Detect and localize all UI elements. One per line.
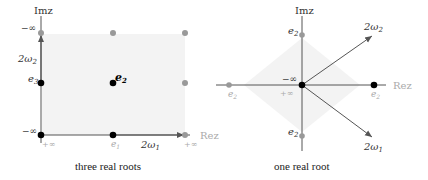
- e3-dot: [38, 80, 45, 87]
- re-axis-label: Rez: [200, 130, 219, 141]
- re-axis-label: Rez: [393, 80, 412, 91]
- right-caption: one real root: [274, 160, 330, 172]
- omega2-label: 2ω2: [17, 53, 38, 66]
- neg-inf-label: −∞: [22, 126, 37, 136]
- grey-dot: [182, 30, 188, 36]
- grey-dot: [110, 30, 116, 36]
- plus-inf-label: +∞: [42, 140, 55, 149]
- im-axis-label: Imz: [295, 5, 314, 16]
- grey-dot: [182, 132, 188, 138]
- e1-dot: [110, 132, 117, 139]
- grey-dot: [226, 82, 232, 88]
- omega1-label: 2ω1: [140, 139, 160, 152]
- e2-left-label: e2: [228, 89, 237, 100]
- omega2-label: 2ω2: [363, 21, 384, 34]
- neg-inf-label: −∞: [282, 74, 297, 84]
- diagram-canvas: Imz −∞ 2ω2 e3 e2 −∞ +∞ e1 2ω1 +∞ Rez Imz…: [0, 0, 428, 180]
- im-axis-label: Imz: [34, 5, 53, 16]
- e2-real-dot: [371, 82, 378, 89]
- left-panel: [38, 16, 190, 143]
- plus-inf-label: +∞: [280, 89, 293, 98]
- e2-right-label: e2: [371, 89, 380, 100]
- origin-dot: [299, 82, 306, 89]
- left-caption: three real roots: [75, 160, 141, 172]
- e2-top-label: e2: [288, 25, 299, 38]
- grey-dot: [299, 32, 305, 38]
- grey-dot: [299, 133, 305, 139]
- e1-label: e1: [111, 139, 120, 150]
- neg-inf-label: −∞: [21, 23, 36, 33]
- e3-label: e3: [28, 73, 39, 86]
- grey-dot: [38, 30, 44, 36]
- omega1-label: 2ω1: [363, 141, 383, 154]
- figure: Imz −∞ 2ω2 e3 e2 −∞ +∞ e1 2ω1 +∞ Rez Imz…: [0, 0, 428, 180]
- right-panel: [216, 16, 386, 151]
- plus-inf-label: +∞: [184, 140, 197, 149]
- origin-dot: [38, 132, 45, 139]
- grey-dot: [182, 80, 188, 86]
